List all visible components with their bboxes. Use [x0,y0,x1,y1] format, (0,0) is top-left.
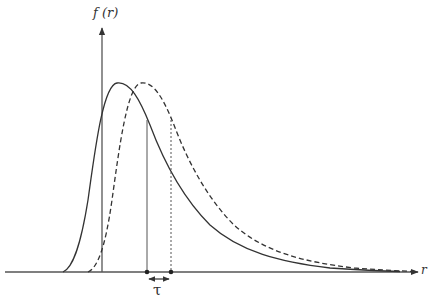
solid-marker-dot [145,270,150,275]
y-axis-label: f (r) [93,5,118,20]
shift-label: τ [153,281,161,299]
dashed-marker-dot [169,270,174,275]
dashed-density-curve [88,83,415,272]
solid-density-curve [63,83,400,272]
x-axis-label: r [421,263,427,277]
density-shift-diagram: f (r) r τ [0,0,441,304]
